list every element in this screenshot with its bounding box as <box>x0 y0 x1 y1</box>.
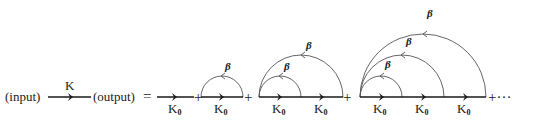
ellipsis: +··· <box>488 89 511 105</box>
full-propagator-label: K <box>65 78 75 93</box>
plus-sign: + <box>244 89 252 105</box>
term-order-0: K0 <box>157 93 194 117</box>
free-propagator-label: K0 <box>415 101 428 117</box>
term-order-1: β K0 <box>201 60 243 117</box>
term-order-2: β β K0 K0 <box>259 39 343 117</box>
free-propagator-label: K0 <box>272 101 285 117</box>
free-propagator-label: K0 <box>373 101 386 117</box>
output-label: (output) <box>93 89 135 104</box>
free-propagator-label: K0 <box>314 101 327 117</box>
interaction-label: β <box>283 60 290 72</box>
term-order-3: β β β K0 K0 K0 <box>360 7 486 117</box>
interaction-label: β <box>224 60 231 72</box>
equals-sign: = <box>143 88 151 104</box>
interaction-label: β <box>426 7 433 19</box>
free-propagator-label: K0 <box>457 101 470 117</box>
input-label: (input) <box>5 89 40 104</box>
free-propagator-label: K0 <box>214 101 227 117</box>
free-propagator-label: K0 <box>168 101 181 117</box>
interaction-label: β <box>305 39 312 51</box>
plus-sign: + <box>343 89 351 105</box>
full-propagator: K <box>48 78 91 101</box>
interaction-label: β <box>384 58 391 70</box>
dyson-series-diagram: (input) K (output) = K0 + β K0 + β β K0 … <box>0 0 534 120</box>
interaction-label: β <box>405 35 412 47</box>
